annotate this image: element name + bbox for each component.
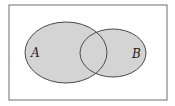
set-a-label: A: [30, 46, 40, 60]
set-b-label: B: [131, 47, 141, 61]
venn-diagram: A B: [0, 0, 175, 106]
